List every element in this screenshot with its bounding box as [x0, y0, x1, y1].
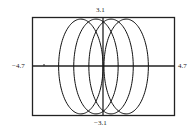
x-min-label: −4.7 [12, 62, 25, 70]
plot-area [0, 0, 194, 132]
x-max-label: 4.7 [178, 62, 187, 70]
y-min-label: −3.1 [94, 119, 107, 127]
y-max-label: 3.1 [96, 6, 105, 14]
